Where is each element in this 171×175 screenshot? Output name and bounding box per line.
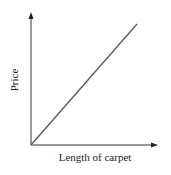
x-axis-label: Length of carpet: [59, 151, 132, 163]
chart-canvas: [0, 0, 171, 175]
price-line: [31, 24, 137, 145]
proportional-line-chart: Price Length of carpet: [0, 0, 171, 175]
y-axis-label: Price: [8, 69, 20, 92]
y-axis-arrow-icon: [29, 12, 34, 19]
x-axis-arrow-icon: [151, 143, 158, 148]
